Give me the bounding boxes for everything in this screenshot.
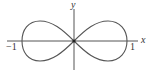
lemniscate-diagram: y x −1 1 xyxy=(0,0,153,73)
origin-point xyxy=(72,39,75,42)
tick-label-neg-one: −1 xyxy=(6,41,17,52)
x-axis-label: x xyxy=(140,34,146,45)
y-axis-label: y xyxy=(70,0,76,10)
tick-label-one: 1 xyxy=(130,41,135,52)
